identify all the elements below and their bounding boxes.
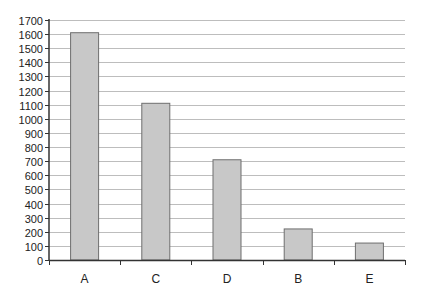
y-tick-label: 1200 — [19, 86, 43, 98]
y-axis-ticks: 0100200300400500600700800900100011001200… — [19, 15, 49, 267]
y-tick-label: 500 — [25, 184, 43, 196]
y-tick-label: 700 — [25, 156, 43, 168]
x-category-label: B — [294, 272, 302, 286]
x-category-label: D — [223, 272, 232, 286]
bar-b — [284, 229, 312, 260]
y-tick-label: 1500 — [19, 43, 43, 55]
y-tick-label: 1600 — [19, 29, 43, 41]
bar-e — [355, 243, 383, 260]
y-tick-label: 0 — [37, 255, 43, 267]
x-category-label: E — [365, 272, 373, 286]
y-tick-label: 1100 — [19, 100, 43, 112]
bar-chart: 0100200300400500600700800900100011001200… — [0, 0, 422, 298]
y-tick-label: 400 — [25, 199, 43, 211]
y-tick-label: 1700 — [19, 15, 43, 27]
y-tick-label: 100 — [25, 241, 43, 253]
bar-a — [71, 33, 99, 260]
x-category-label: A — [81, 272, 89, 286]
bars — [71, 33, 384, 260]
y-tick-label: 600 — [25, 170, 43, 182]
y-tick-label: 300 — [25, 213, 43, 225]
y-tick-label: 1000 — [19, 114, 43, 126]
y-tick-label: 200 — [25, 227, 43, 239]
x-axis-categories: ACDBE — [50, 260, 406, 286]
y-tick-label: 800 — [25, 142, 43, 154]
y-tick-label: 900 — [25, 128, 43, 140]
x-category-label: C — [151, 272, 160, 286]
bar-c — [142, 103, 170, 260]
y-tick-label: 1300 — [19, 71, 43, 83]
y-tick-label: 1400 — [19, 57, 43, 69]
bar-d — [213, 160, 241, 260]
